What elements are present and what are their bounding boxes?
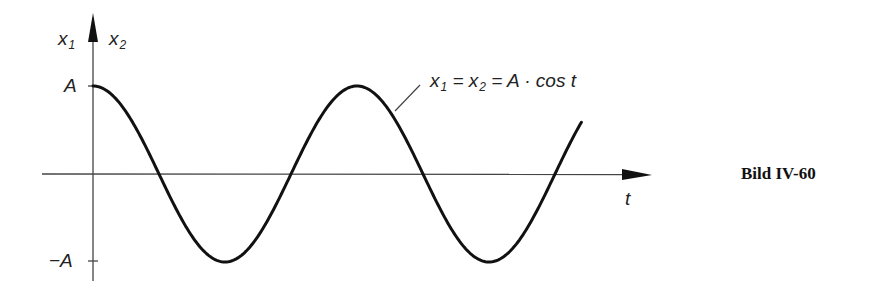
y-label-x2: x2: [109, 28, 126, 50]
annotation-leader-line: [395, 85, 420, 111]
y-axis-arrow-icon: [88, 13, 98, 42]
x-axis: [42, 174, 630, 175]
tick-label-negA: −A: [49, 250, 73, 272]
formula-annotation: x1 = x2 = A · cos t: [430, 70, 576, 92]
y-label-x1: x1: [58, 28, 75, 50]
tick-label-A: A: [64, 75, 77, 97]
cosine-chart: [0, 0, 876, 297]
x-axis-label-t: t: [625, 188, 630, 210]
figure-caption: Bild IV-60: [741, 164, 816, 184]
x-axis-arrow-icon: [622, 169, 652, 180]
